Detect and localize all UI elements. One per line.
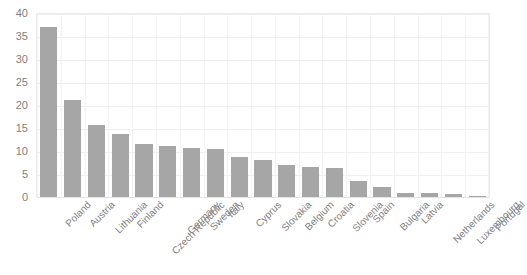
x-axis-tick-label: Austria	[87, 199, 117, 229]
bar	[135, 144, 152, 197]
bar	[64, 100, 81, 197]
y-axis-tick-label: 0	[22, 192, 28, 203]
bar-series	[37, 14, 489, 197]
bar	[231, 157, 248, 197]
bar	[112, 134, 129, 197]
plot-area	[36, 13, 490, 197]
bar	[183, 148, 200, 197]
y-axis-tick-label: 10	[16, 146, 28, 157]
bar	[88, 125, 105, 197]
bar	[302, 167, 319, 197]
x-axis: PolandAustriaLithuaniaFinlandCzech Repub…	[36, 199, 490, 275]
bar	[421, 193, 438, 197]
bar	[207, 149, 224, 197]
bar	[326, 168, 343, 197]
bar	[40, 27, 57, 197]
y-axis-tick-label: 40	[16, 8, 28, 19]
y-axis-tick-label: 15	[16, 123, 28, 134]
y-axis: 0510152025303540	[0, 0, 34, 205]
bar	[278, 165, 295, 197]
bar	[254, 160, 271, 197]
bar	[445, 194, 462, 197]
y-axis-tick-label: 30	[16, 54, 28, 65]
gridline-horizontal	[37, 197, 489, 198]
y-axis-tick-label: 20	[16, 100, 28, 111]
y-axis-tick-label: 5	[22, 169, 28, 180]
y-axis-tick-label: 25	[16, 77, 28, 88]
y-axis-tick-label: 35	[16, 31, 28, 42]
x-axis-tick-label: Poland	[63, 199, 93, 229]
bar	[373, 187, 390, 197]
bar	[159, 146, 176, 197]
bar	[350, 181, 367, 197]
bar	[469, 196, 486, 197]
bar	[397, 193, 414, 197]
